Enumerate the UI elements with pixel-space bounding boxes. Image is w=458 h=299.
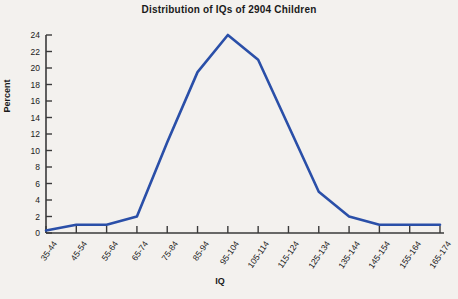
chart-container: Distribution of IQs of 2904 Children Per…	[0, 0, 458, 299]
data-series-line	[46, 35, 440, 231]
plot-area	[0, 0, 458, 299]
axes	[46, 35, 444, 233]
